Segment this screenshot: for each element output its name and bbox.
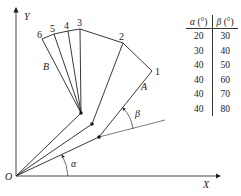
joint-dot [97, 135, 100, 138]
alpha-label: α [71, 159, 76, 169]
link-b-segments [42, 29, 152, 137]
table-header-row: α (°) β (°) [186, 15, 238, 29]
x-axis-label: X [203, 180, 209, 190]
position-label-3: 3 [77, 18, 82, 28]
origin-label: O [5, 172, 12, 182]
position-label-2: 2 [119, 32, 124, 42]
joint-dot [90, 122, 93, 125]
beta-label: β [135, 109, 140, 119]
joint-dot [79, 111, 82, 114]
table-row: 4080 [186, 102, 238, 117]
link-a-segments [16, 113, 99, 176]
alpha-arc [62, 155, 68, 176]
header-beta: β (°) [212, 15, 238, 29]
arm-label-a: A [141, 82, 147, 92]
table-row: 4050 [186, 58, 238, 73]
table-row: 2030 [186, 29, 238, 44]
table-row: 4060 [186, 73, 238, 88]
table-row: 3040 [186, 44, 238, 59]
y-axis-label: Y [24, 12, 30, 22]
position-label-1: 1 [155, 67, 160, 77]
table-row: 4070 [186, 87, 238, 102]
arm-label-b: B [43, 62, 49, 72]
tip-trajectory [42, 29, 152, 71]
position-label-5: 5 [50, 24, 55, 34]
position-label-4: 4 [64, 21, 69, 31]
position-label-6: 6 [37, 30, 42, 40]
header-alpha: α (°) [186, 15, 212, 29]
angle-table: α (°) β (°) 2030 3040 4050 4060 4070 408… [186, 15, 238, 116]
beta-arc [123, 108, 133, 129]
